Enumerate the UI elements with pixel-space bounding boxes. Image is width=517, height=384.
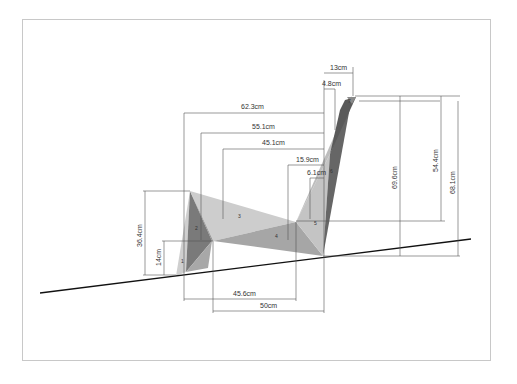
dim-54-4: 54.4cm [432,149,439,172]
dim-15-9: 15.9cm [296,156,319,163]
panel-label-6: 6 [330,168,333,174]
dim-13: 13cm [330,64,347,71]
dim-62-3: 62.3cm [241,103,264,110]
dim-4-8: 4.8cm [322,80,341,87]
dim-36-4: 36.4cm [136,224,143,247]
dim-50: 50cm [260,302,277,309]
ground-line [40,239,471,293]
dim-69-6: 69.6cm [391,166,398,189]
panel-label-4: 4 [275,233,278,239]
dim-68-1: 68.1cm [449,171,456,194]
panel-label-3: 3 [238,213,241,219]
dim-6-1: 6.1cm [307,169,326,176]
dimension-lines [143,67,460,313]
panel-label-2: 2 [195,225,198,231]
dim-45-1: 45.1cm [262,139,285,146]
chair-dimension-drawing: 1 2 3 4 5 6 7 [0,0,517,384]
dim-55-1: 55.1cm [252,123,275,130]
panel-label-1: 1 [181,258,184,264]
dim-45-6: 45.6cm [233,290,256,297]
dim-14: 14cm [155,249,162,266]
panel-label-7: 7 [348,98,351,104]
